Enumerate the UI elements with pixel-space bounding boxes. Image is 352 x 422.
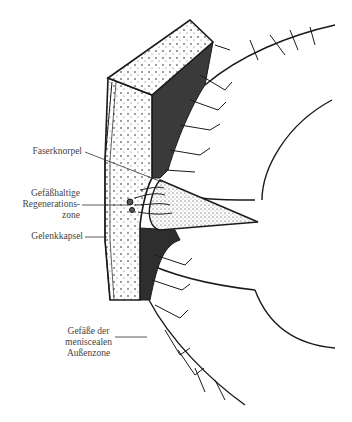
label-text: Gelenkkapsel	[31, 231, 83, 241]
label-aussenzone: Gefäße der meniscealen Außenzone	[65, 326, 112, 359]
meniscus-wedge	[149, 180, 258, 230]
capsule-dark-lower	[140, 228, 180, 300]
outer-zone-vessels-lower	[152, 255, 225, 400]
label-gelenkkapsel: Gelenkkapsel	[31, 231, 83, 242]
label-text: Regenerations-	[22, 199, 80, 210]
label-text: Außenzone	[65, 348, 112, 359]
label-text: Faserknorpel	[32, 146, 82, 156]
label-text: meniscealen	[65, 337, 112, 348]
label-faserknorpel: Faserknorpel	[32, 146, 82, 157]
label-text: Gefäßhaltige	[22, 188, 80, 199]
label-regenerationszone: Gefäßhaltige Regenerations- zone	[22, 188, 80, 221]
label-text: Gefäße der	[65, 326, 112, 337]
label-text: zone	[22, 210, 80, 221]
